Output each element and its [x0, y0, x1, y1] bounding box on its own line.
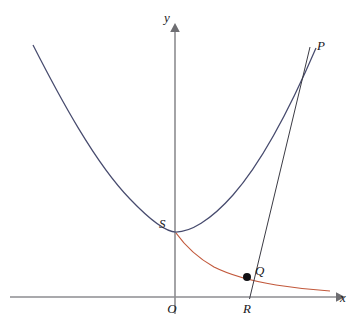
point-label-r: R: [242, 301, 251, 316]
origin-label: O: [167, 301, 177, 316]
point-label-s: S: [159, 216, 166, 231]
diagram-canvas: y x O P S Q R: [0, 0, 357, 324]
x-axis: [10, 292, 345, 302]
math-diagram: y x O P S Q R: [0, 0, 357, 324]
y-axis-arrowhead: [170, 23, 180, 32]
y-axis: [170, 23, 180, 314]
point-q-marker: [243, 273, 251, 281]
y-axis-label: y: [162, 10, 170, 25]
x-axis-label: x: [339, 290, 346, 305]
point-label-q: Q: [255, 263, 265, 278]
tangent-line: [250, 47, 311, 299]
point-label-p: P: [316, 38, 325, 53]
